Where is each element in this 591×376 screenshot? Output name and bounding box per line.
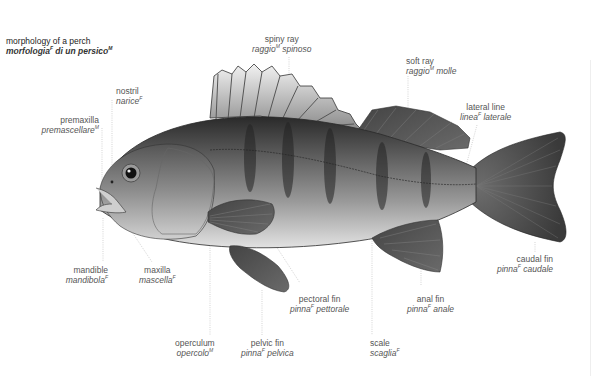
gender-mark: M xyxy=(209,347,213,353)
label-soft-ray: soft ray raggioM molle xyxy=(406,56,457,76)
gender-mark: M xyxy=(95,124,99,130)
label-en: premaxilla xyxy=(41,115,99,125)
it-word: mascella xyxy=(139,275,173,285)
it-word: pinna xyxy=(241,348,262,358)
label-caudal-fin: caudal fin pinnaF caudale xyxy=(497,254,553,274)
label-en: maxilla xyxy=(139,265,176,275)
label-en: spiny ray xyxy=(252,34,311,44)
label-it: pinnaF pettorale xyxy=(290,304,349,314)
it-rest: molle xyxy=(434,66,457,76)
it-word: narice xyxy=(116,96,139,106)
gender-mark: F xyxy=(139,95,142,101)
label-it: mascellaF xyxy=(139,275,176,285)
it-word: pinna xyxy=(407,304,428,314)
label-en: pelvic fin xyxy=(241,338,294,348)
label-pelvic-fin: pelvic fin pinnaF pelvica xyxy=(241,338,294,358)
it-rest: pelvica xyxy=(265,348,294,358)
label-en: caudal fin xyxy=(497,254,553,264)
it-word: opercolo xyxy=(176,348,209,358)
it-word: linea xyxy=(460,112,478,122)
label-en: mandible xyxy=(66,265,108,275)
it-word: mandibola xyxy=(66,275,105,285)
label-it: raggioM spinoso xyxy=(252,44,311,54)
label-spiny-ray: spiny ray raggioM spinoso xyxy=(252,34,311,54)
gender-mark: F xyxy=(396,347,399,353)
it-rest: pettorale xyxy=(314,304,349,314)
it-rest: caudale xyxy=(521,264,553,274)
it-rest: spinoso xyxy=(280,44,312,54)
it-word: pinna xyxy=(497,264,518,274)
label-lateral-line: lateral line lineaF laterale xyxy=(460,102,511,122)
it-word: raggio xyxy=(406,66,430,76)
label-maxilla: maxilla mascellaF xyxy=(139,265,176,285)
perch-illustration xyxy=(0,0,591,376)
it-word: scaglia xyxy=(370,348,396,358)
caudal-fin xyxy=(470,132,566,242)
it-rest: laterale xyxy=(481,112,511,122)
gender-mark: F xyxy=(173,274,176,280)
label-mandible: mandible mandibolaF xyxy=(66,265,108,285)
label-it: nariceF xyxy=(116,96,142,106)
it-word: pinna xyxy=(290,304,311,314)
it-word: raggio xyxy=(252,44,276,54)
label-nostril: nostril nariceF xyxy=(116,86,142,106)
label-it: raggioM molle xyxy=(406,66,457,76)
label-en: lateral line xyxy=(460,102,511,112)
label-anal-fin: anal fin pinnaF anale xyxy=(407,294,454,314)
label-it: lineaF laterale xyxy=(460,112,511,122)
label-pectoral-fin: pectoral fin pinnaF pettorale xyxy=(290,294,349,314)
it-rest: anale xyxy=(431,304,454,314)
label-it: pinnaF pelvica xyxy=(241,348,294,358)
label-it: opercoloM xyxy=(175,348,215,358)
label-scale: scale scagliaF xyxy=(370,338,400,358)
label-it: pinnaF caudale xyxy=(497,264,553,274)
label-it: mandibolaF xyxy=(66,275,108,285)
gender-mark: F xyxy=(105,274,108,280)
label-en: pectoral fin xyxy=(290,294,349,304)
it-word: premascellare xyxy=(41,125,94,135)
label-premaxilla: premaxilla premascellareM xyxy=(41,115,99,135)
label-it: scagliaF xyxy=(370,348,400,358)
label-operculum: operculum opercoloM xyxy=(175,338,215,358)
fish-head xyxy=(100,144,214,239)
pelvic-fin xyxy=(229,246,288,292)
label-it: pinnaF anale xyxy=(407,304,454,314)
label-it: premascellareM xyxy=(41,125,99,135)
